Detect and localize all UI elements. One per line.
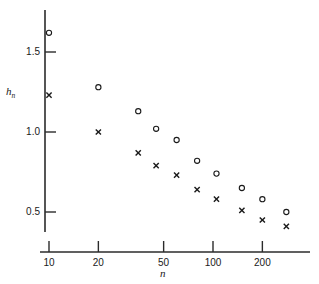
x-tick-label-100: 100 xyxy=(193,258,233,268)
data-point-cross-80 xyxy=(195,187,200,192)
y-axis-title: hn xyxy=(6,86,15,100)
data-point-cross-45 xyxy=(154,163,159,168)
scatter-plot-figure: 0.51.01.5 102050100200 hn n xyxy=(0,0,319,284)
data-point-circle-280 xyxy=(284,209,289,214)
data-point-cross-150 xyxy=(239,208,244,213)
data-point-circle-150 xyxy=(239,185,244,190)
x-tick-label-200: 200 xyxy=(242,258,282,268)
data-point-cross-105 xyxy=(214,197,219,202)
data-point-circle-60 xyxy=(174,137,179,142)
data-point-cross-60 xyxy=(174,173,179,178)
x-axis-title: n xyxy=(160,268,166,279)
data-point-circle-35 xyxy=(136,109,141,114)
x-tick-label-10: 10 xyxy=(29,258,69,268)
data-point-circle-45 xyxy=(154,126,159,131)
data-point-cross-20 xyxy=(96,129,101,134)
x-axis-title-main: n xyxy=(160,267,166,279)
tick-marks-group xyxy=(45,52,262,252)
data-point-cross-200 xyxy=(260,217,265,222)
y-tick-label-1.0: 1.0 xyxy=(14,127,40,137)
y-tick-label-1.5: 1.5 xyxy=(14,47,40,57)
x-tick-label-20: 20 xyxy=(78,258,118,268)
data-point-cross-280 xyxy=(284,224,289,229)
data-point-circle-105 xyxy=(214,171,219,176)
data-point-cross-35 xyxy=(136,150,141,155)
data-markers-group xyxy=(46,30,289,229)
data-point-circle-20 xyxy=(96,85,101,90)
data-point-circle-10 xyxy=(46,30,51,35)
data-point-cross-10 xyxy=(46,93,51,98)
axes-group xyxy=(40,10,310,252)
data-point-circle-200 xyxy=(260,197,265,202)
plot-canvas xyxy=(0,0,319,284)
y-tick-label-0.5: 0.5 xyxy=(14,207,40,217)
y-axis-title-subscript: n xyxy=(12,91,16,100)
data-point-circle-80 xyxy=(195,158,200,163)
